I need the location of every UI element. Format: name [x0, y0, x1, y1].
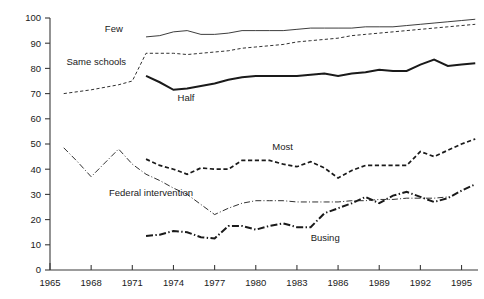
x-tick-label: 1995	[451, 277, 472, 288]
x-tick-label: 1980	[245, 277, 266, 288]
series-line-busing	[146, 184, 475, 238]
x-tick-label: 1992	[410, 277, 431, 288]
y-axis-ticks: 0102030405060708090100	[25, 12, 50, 275]
chart-container: 0102030405060708090100 19651968197119741…	[0, 0, 484, 299]
series-label-half: Half	[178, 92, 195, 103]
y-tick-label: 50	[30, 138, 41, 149]
y-tick-label: 10	[30, 239, 41, 250]
series-annotations: FewSame schoolsHalfMostFederal intervent…	[66, 23, 339, 243]
x-tick-label: 1974	[163, 277, 184, 288]
series-label-federal-intervention: Federal intervention	[109, 187, 193, 198]
series-label-same-schools: Same schools	[66, 56, 126, 67]
y-tick-label: 0	[36, 264, 41, 275]
y-tick-label: 40	[30, 164, 41, 175]
y-tick-label: 80	[30, 63, 41, 74]
x-tick-label: 1977	[204, 277, 225, 288]
x-tick-label: 1971	[122, 277, 143, 288]
x-axis-ticks: 1965196819711974197719801983198619891992…	[39, 263, 472, 288]
x-tick-label: 1968	[81, 277, 102, 288]
line-chart: 0102030405060708090100 19651968197119741…	[0, 0, 484, 299]
series-line-most	[146, 139, 475, 178]
series-label-few: Few	[105, 23, 123, 34]
y-tick-label: 100	[25, 12, 41, 23]
y-tick-label: 30	[30, 189, 41, 200]
series-lines	[64, 19, 476, 238]
x-tick-label: 1986	[328, 277, 349, 288]
y-tick-label: 70	[30, 88, 41, 99]
series-label-most: Most	[272, 141, 293, 152]
x-tick-label: 1989	[369, 277, 390, 288]
x-tick-label: 1965	[39, 277, 60, 288]
x-tick-label: 1983	[286, 277, 307, 288]
y-tick-label: 90	[30, 38, 41, 49]
series-line-few	[146, 19, 475, 37]
series-line-federal-intervention	[64, 148, 448, 215]
y-tick-label: 20	[30, 214, 41, 225]
series-line-half	[146, 60, 475, 90]
series-label-busing: Busing	[311, 232, 340, 243]
y-tick-label: 60	[30, 113, 41, 124]
